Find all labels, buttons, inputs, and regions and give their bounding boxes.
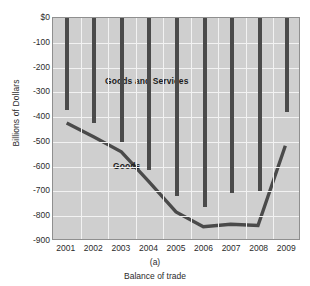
x-tick-label: 2008	[244, 243, 274, 253]
x-tick-label: 2009	[271, 243, 301, 253]
y-tick-label: -700	[14, 186, 50, 194]
bar	[203, 18, 207, 207]
y-tick-label: -500	[14, 137, 50, 145]
bar	[230, 18, 234, 193]
figure-caption: Balance of trade	[0, 271, 310, 281]
grid-line-vertical	[218, 18, 219, 239]
x-tick-label: 2004	[133, 243, 163, 253]
x-tick-label: 2006	[189, 243, 219, 253]
grid-line-horizontal	[53, 216, 299, 217]
y-axis-tick-labels: $0-100-200-300-400-500-600-700-800-900	[12, 0, 50, 286]
plot-area: Goods and Services Goods	[52, 17, 300, 240]
chart-figure: Billions of Dollars $0-100-200-300-400-5…	[0, 0, 310, 286]
grid-line-vertical	[273, 18, 274, 239]
x-tick-label: 2003	[106, 243, 136, 253]
y-tick-label: -800	[14, 211, 50, 219]
grid-line-vertical	[81, 18, 82, 239]
x-tick-label: 2005	[161, 243, 191, 253]
x-tick-label: 2001	[51, 243, 81, 253]
y-tick-label: -300	[14, 87, 50, 95]
bar	[175, 18, 179, 196]
y-tick-label: -900	[14, 236, 50, 244]
panel-letter: (a)	[0, 257, 310, 267]
grid-line-vertical	[108, 18, 109, 239]
bar	[65, 18, 69, 110]
grid-line-vertical	[246, 18, 247, 239]
x-tick-label: 2007	[216, 243, 246, 253]
grid-line-vertical	[163, 18, 164, 239]
y-tick-label: $0	[14, 13, 50, 21]
x-axis-tick-labels: 200120022003200420052006200720082009	[52, 243, 300, 257]
clipped-header-text	[36, 0, 216, 5]
bar	[147, 18, 151, 170]
grid-line-vertical	[191, 18, 192, 239]
grid-line-vertical	[136, 18, 137, 239]
y-tick-label: -200	[14, 63, 50, 71]
bar	[92, 18, 96, 123]
y-tick-label: -100	[14, 38, 50, 46]
x-tick-label: 2002	[78, 243, 108, 253]
bar	[120, 18, 124, 142]
bar	[258, 18, 262, 191]
bar	[285, 18, 289, 112]
y-tick-label: -600	[14, 162, 50, 170]
y-tick-label: -400	[14, 112, 50, 120]
